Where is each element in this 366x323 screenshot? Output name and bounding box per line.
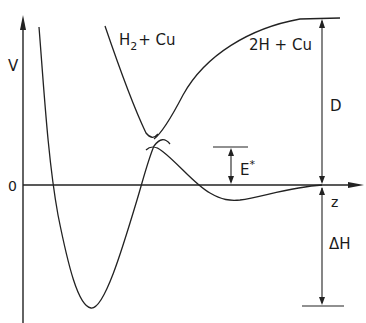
z-axis-arrow-icon: [348, 182, 364, 188]
molecular-curve-label: H2+ Cu: [119, 31, 176, 53]
v-axis-label: V: [8, 57, 19, 75]
dissociation-energy-dimension: [319, 19, 325, 184]
zero-label: 0: [8, 178, 17, 194]
v-axis-arrow-icon: [20, 15, 26, 30]
z-axis-label: z: [331, 194, 338, 210]
atomic-curve-upper-branch: [154, 18, 340, 139]
enthalpy-label: ΔH: [329, 235, 351, 253]
activation-barrier-label: E*: [240, 158, 255, 179]
atomic-curve-label: 2H + Cu: [249, 36, 312, 54]
v-axis: [20, 15, 26, 323]
potential-energy-diagram: V 0 z H2+ Cu 2H + Cu E* D ΔH: [0, 0, 366, 323]
atomic-potential-curve: [39, 27, 170, 308]
z-axis: [23, 182, 364, 188]
dissociation-energy-label: D: [330, 97, 342, 115]
